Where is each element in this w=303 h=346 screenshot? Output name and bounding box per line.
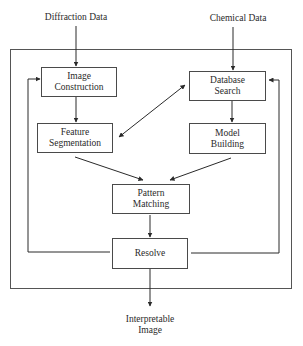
output-label-line1: Interpretable [110, 314, 190, 325]
node-resolve: Resolve [112, 238, 188, 269]
node-label-line1: Image [67, 71, 91, 82]
node-database-search: Database Search [189, 71, 266, 101]
feedback-resolve-to-image-construction [28, 79, 110, 252]
input-diffraction-data: Diffraction Data [36, 12, 116, 23]
flow-connectors [0, 0, 303, 346]
feedback-resolve-to-database-search [191, 80, 279, 253]
output-interpretable-image: Interpretable Image [110, 314, 190, 336]
node-feature-segmentation: Feature Segmentation [37, 123, 113, 153]
node-label-line2: Matching [133, 199, 169, 210]
node-pattern-matching: Pattern Matching [112, 184, 190, 214]
node-label-line2: Construction [54, 82, 103, 93]
node-label-line2: Segmentation [49, 138, 101, 149]
node-label-line2: Building [211, 139, 244, 150]
node-model-building: Model Building [189, 123, 266, 154]
arrow-feature-segmentation-to-pattern-matching [75, 157, 143, 180]
node-label-line1: Model [215, 128, 240, 139]
arrow-model-building-to-pattern-matching [170, 158, 231, 180]
node-label-line1: Database [210, 75, 245, 86]
arrow-feature-segmentation-database-search-bidirectional [119, 85, 185, 137]
node-label-line1: Resolve [135, 248, 166, 259]
input-chemical-data: Chemical Data [198, 13, 278, 24]
node-label-line1: Pattern [138, 188, 165, 199]
output-label-line2: Image [110, 325, 190, 336]
node-label-line2: Search [215, 86, 241, 97]
node-image-construction: Image Construction [41, 67, 117, 97]
node-label-line1: Feature [61, 127, 90, 138]
